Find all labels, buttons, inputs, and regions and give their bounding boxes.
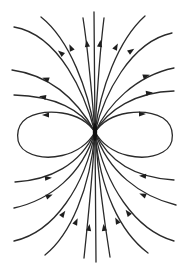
dipole-field-diagram (0, 0, 191, 268)
dipole-core (93, 123, 97, 141)
